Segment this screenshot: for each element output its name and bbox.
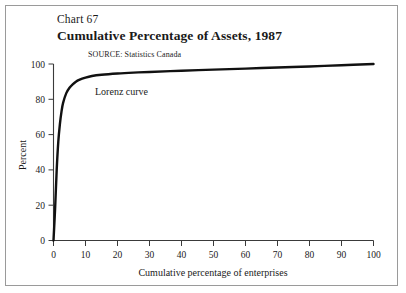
y-axis-title: Percent bbox=[17, 140, 28, 170]
y-tick-label-60: 60 bbox=[36, 130, 46, 140]
x-tick-label-0: 0 bbox=[51, 250, 56, 260]
x-tick-label-80: 80 bbox=[305, 250, 315, 260]
x-axis-group: 0 10 20 30 40 50 60 70 80 90 100 Cumulat… bbox=[51, 241, 381, 279]
y-tick-label-40: 40 bbox=[36, 165, 46, 175]
x-tick-label-100: 100 bbox=[366, 250, 381, 260]
x-tick-label-50: 50 bbox=[209, 250, 219, 260]
y-tick-marks bbox=[49, 64, 54, 241]
x-tick-marks bbox=[54, 241, 374, 247]
lorenz-curve-annotation: Lorenz curve bbox=[95, 86, 149, 97]
x-tick-label-90: 90 bbox=[337, 250, 347, 260]
x-tick-label-60: 60 bbox=[241, 250, 251, 260]
x-axis-title: Cumulative percentage of enterprises bbox=[138, 267, 287, 278]
y-tick-label-20: 20 bbox=[36, 201, 46, 211]
y-tick-label-0: 0 bbox=[40, 236, 45, 246]
x-tick-label-20: 20 bbox=[113, 250, 123, 260]
x-tick-label-30: 30 bbox=[145, 250, 155, 260]
x-tick-label-70: 70 bbox=[273, 250, 283, 260]
chart-figure: Chart 67 Cumulative Percentage of Assets… bbox=[0, 0, 406, 293]
x-tick-label-40: 40 bbox=[177, 250, 187, 260]
y-tick-label-100: 100 bbox=[31, 60, 46, 70]
y-axis-group: 100 80 60 40 20 0 Percent bbox=[17, 60, 54, 247]
y-tick-label-80: 80 bbox=[36, 95, 46, 105]
plot-area: 100 80 60 40 20 0 Percent 0 bbox=[0, 0, 406, 293]
x-tick-label-10: 10 bbox=[81, 250, 91, 260]
